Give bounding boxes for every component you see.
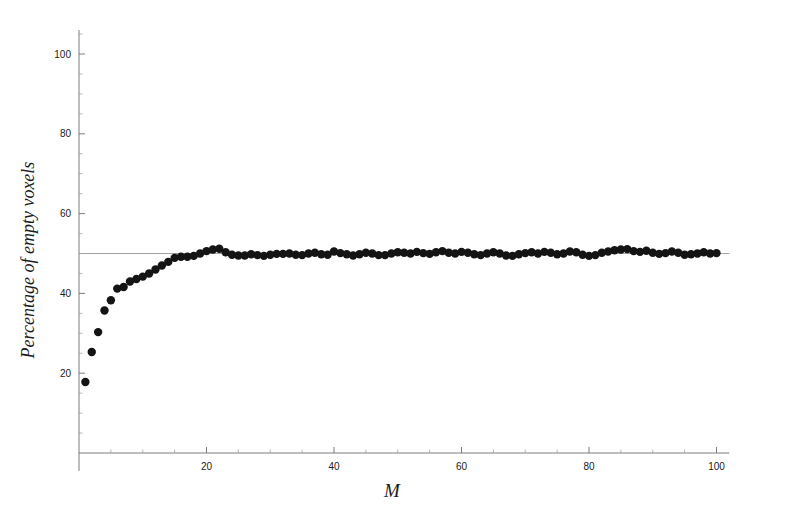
data-point (712, 249, 720, 257)
data-point (81, 378, 89, 386)
axis-ticks (79, 34, 717, 453)
data-point (119, 283, 127, 291)
x-tick-label-80: 80 (583, 461, 595, 472)
data-points (81, 245, 721, 387)
data-point (107, 296, 115, 304)
x-tick-label-60: 60 (456, 461, 468, 472)
y-tick-label-40: 40 (60, 288, 72, 299)
x-axis-title: M (383, 480, 401, 501)
data-point (94, 328, 102, 336)
x-tick-label-40: 40 (328, 461, 340, 472)
chart-figure: 2040608010020406080100 M Percentage of e… (0, 0, 785, 524)
data-point (88, 348, 96, 356)
y-tick-label-100: 100 (54, 49, 71, 60)
x-tick-label-100: 100 (708, 461, 725, 472)
y-tick-label-60: 60 (60, 208, 72, 219)
y-tick-label-80: 80 (60, 128, 72, 139)
y-tick-label-20: 20 (60, 368, 72, 379)
scatter-plot-svg: 2040608010020406080100 M Percentage of e… (0, 0, 785, 524)
y-axis-title: Percentage of empty voxels (18, 162, 38, 360)
axis-tick-labels: 2040608010020406080100 (54, 49, 725, 473)
x-tick-label-20: 20 (201, 461, 213, 472)
data-point (100, 306, 108, 314)
